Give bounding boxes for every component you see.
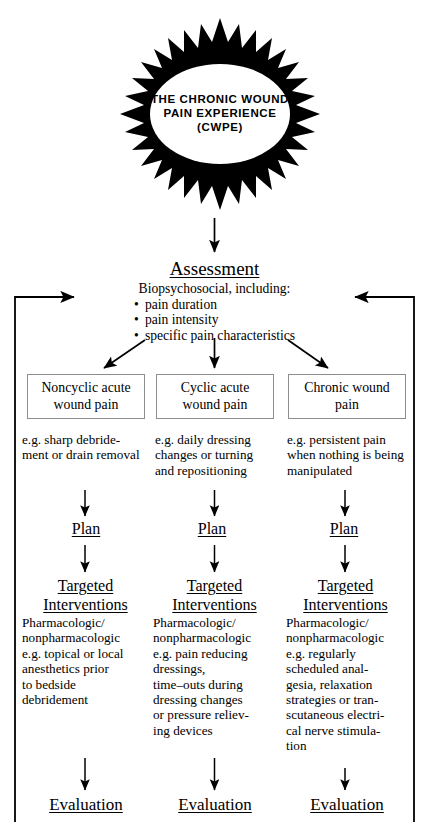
list-item: pain duration <box>134 297 295 313</box>
assessment-subheading: Biopsychosocial, including: <box>0 281 429 297</box>
starburst-line-3: (CWPE) <box>96 120 344 134</box>
starburst-line-1: THE CHRONIC WOUND <box>96 92 344 106</box>
evaluation-label-col3: Evaluation <box>287 795 407 815</box>
category-label: Noncyclic acute wound pain <box>41 380 130 413</box>
ti-line-1: Targeted <box>283 577 408 596</box>
intervention-detail-col2: Pharmacologic/ nonpharmacologic e.g. pai… <box>153 615 283 738</box>
ti-line-1: Targeted <box>152 577 277 596</box>
category-box-cyclic-acute-wound-pain: Cyclic acute wound pain <box>156 374 274 419</box>
intervention-detail-col3: Pharmacologic/ nonpharmacologic e.g. reg… <box>286 615 426 754</box>
arrow-assessment-to-cat3 <box>288 340 328 368</box>
example-text-col3: e.g. persistent pain when nothing is bei… <box>287 432 425 478</box>
evaluation-label-col1: Evaluation <box>26 795 146 815</box>
starburst-label: THE CHRONIC WOUND PAIN EXPERIENCE (CWPE) <box>96 92 344 134</box>
category-label: Chronic wound pain <box>304 380 389 413</box>
category-label: Cyclic acute wound pain <box>181 380 250 413</box>
plan-label-col1: Plan <box>46 519 126 538</box>
targeted-interventions-heading-col3: Targeted Interventions <box>283 577 408 614</box>
assessment-bullet-list: pain duration pain intensity specific pa… <box>134 297 295 344</box>
ti-line-2: Interventions <box>283 596 408 615</box>
plan-label-col3: Plan <box>304 519 384 538</box>
assessment-block: Assessment Biopsychosocial, including: p… <box>0 258 429 344</box>
targeted-interventions-heading-col1: Targeted Interventions <box>23 577 148 614</box>
example-text-col1: e.g. sharp debride- ment or drain remova… <box>22 432 156 463</box>
ti-line-2: Interventions <box>23 596 148 615</box>
category-box-chronic-wound-pain: Chronic wound pain <box>288 374 406 419</box>
plan-label-col2: Plan <box>172 519 252 538</box>
ti-line-2: Interventions <box>152 596 277 615</box>
targeted-interventions-heading-col2: Targeted Interventions <box>152 577 277 614</box>
flowchart-canvas: THE CHRONIC WOUND PAIN EXPERIENCE (CWPE) <box>0 0 429 833</box>
evaluation-label-col2: Evaluation <box>155 795 275 815</box>
list-item: specific pain characteristics <box>134 328 295 344</box>
category-box-noncyclic-acute-wound-pain: Noncyclic acute wound pain <box>27 374 145 419</box>
ti-line-1: Targeted <box>23 577 148 596</box>
arrow-assessment-to-cat1 <box>104 340 145 368</box>
example-text-col2: e.g. daily dressing changes or turning a… <box>155 432 285 478</box>
list-item: pain intensity <box>134 312 295 328</box>
starburst-line-2: PAIN EXPERIENCE <box>96 106 344 120</box>
assessment-heading: Assessment <box>0 258 429 280</box>
intervention-detail-col1: Pharmacologic/ nonpharmacologic e.g. top… <box>22 615 158 707</box>
